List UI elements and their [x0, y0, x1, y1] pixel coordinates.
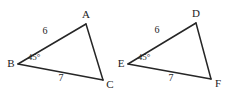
edge-d-f: [196, 23, 211, 79]
geometry-figure: A B C 6 7 45° D E F 6 7 45°: [0, 0, 233, 99]
vertex-label-c: C: [106, 78, 113, 90]
triangle-def: [128, 23, 211, 79]
vertex-label-d: D: [192, 7, 200, 19]
vertex-label-a: A: [82, 8, 90, 20]
angle-label-b: 45°: [28, 52, 41, 62]
vertex-label-b: B: [7, 57, 14, 69]
triangles-canvas: A B C 6 7 45° D E F 6 7 45°: [0, 0, 233, 99]
side-label-ab: 6: [43, 25, 48, 36]
side-label-bc: 7: [59, 72, 64, 83]
side-label-ef: 7: [169, 72, 174, 83]
edge-a-c: [86, 24, 103, 80]
angle-label-e: 45°: [138, 52, 151, 62]
vertex-label-e: E: [118, 57, 125, 69]
vertex-label-f: F: [215, 77, 221, 89]
side-label-ed: 6: [155, 24, 160, 35]
